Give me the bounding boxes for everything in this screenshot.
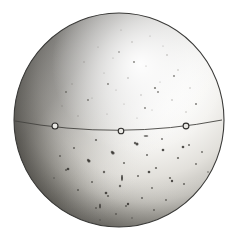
sphere-highlight: [14, 13, 224, 227]
sphere-body: [14, 13, 224, 227]
equator-marker-east: [183, 123, 189, 129]
figure-plate: Photographic plate of a sphere lit from …: [0, 0, 239, 237]
sphere-illustration: [0, 0, 239, 237]
equator-marker-west: [52, 123, 58, 129]
equator-marker-central: [118, 128, 124, 134]
